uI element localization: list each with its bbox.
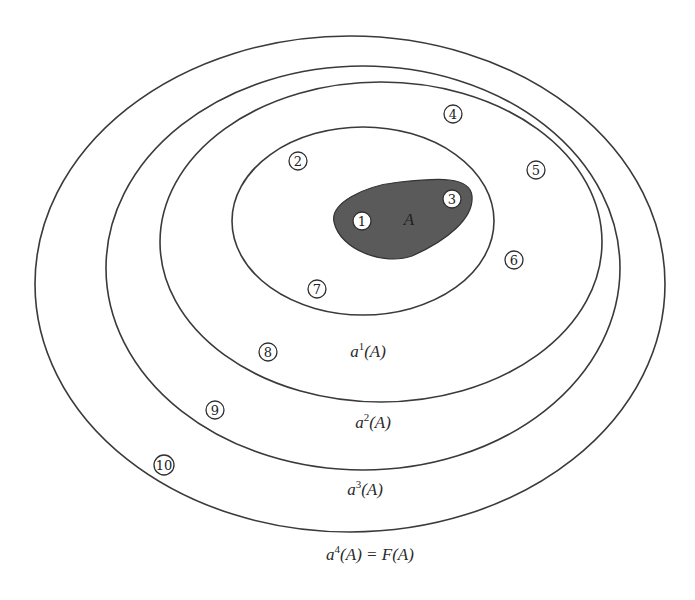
node-6: 6 — [505, 251, 523, 269]
ring-label-a3: a3(A) — [347, 478, 383, 499]
node-10: 10 — [154, 455, 174, 475]
node-number: 7 — [313, 282, 321, 297]
nested-sets-diagram: A a1(A)a2(A)a3(A)a4(A) = F(A) 1234567891… — [0, 0, 695, 600]
ring-label-a4: a4(A) = F(A) — [326, 543, 414, 564]
node-number: 4 — [449, 107, 457, 122]
ring-label-a2: a2(A) — [355, 411, 391, 432]
node-number: 8 — [264, 345, 272, 360]
node-7: 7 — [308, 280, 326, 298]
set-a-label: A — [403, 210, 415, 229]
node-number: 6 — [510, 253, 518, 268]
node-number: 2 — [294, 154, 302, 169]
node-5: 5 — [527, 161, 545, 179]
node-9: 9 — [206, 401, 224, 419]
node-2: 2 — [289, 152, 307, 170]
node-number: 10 — [156, 458, 173, 473]
node-number: 1 — [358, 214, 366, 229]
node-number: 5 — [532, 163, 540, 178]
node-8: 8 — [259, 343, 277, 361]
node-1: 1 — [353, 212, 371, 230]
ring-a4 — [35, 36, 665, 532]
node-3: 3 — [443, 190, 461, 208]
node-number: 3 — [448, 192, 456, 207]
ring-label-a1: a1(A) — [350, 340, 386, 361]
node-4: 4 — [444, 105, 462, 123]
node-number: 9 — [211, 403, 219, 418]
